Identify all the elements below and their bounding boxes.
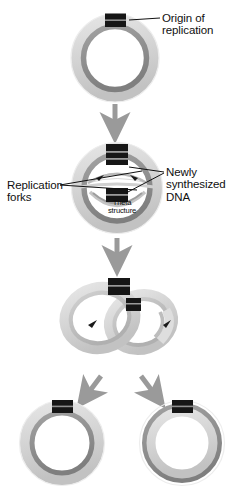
label-origin-of-replication: Origin of replication [162, 12, 213, 37]
daughter-right-outer-strand [145, 406, 219, 480]
stage-parental-circle [71, 14, 159, 103]
label-newly-synthesized-dna: Newly synthesized DNA [166, 166, 226, 203]
stage-daughter-circle-left [20, 400, 105, 486]
parental-inner-strand [84, 27, 147, 90]
daughter-left-outer-strand [25, 406, 99, 480]
daughter-right-inner-strand [151, 412, 213, 474]
stage-theta-structure [72, 143, 163, 234]
label-theta-structure: Theta structure [94, 199, 150, 215]
stage-catenated-circles [58, 278, 181, 359]
parental-outer-strand [77, 20, 154, 97]
diagram-canvas [0, 0, 241, 503]
origin-marker-daughter-right [172, 400, 193, 413]
daughter-left-inner-strand [32, 413, 92, 473]
stage-daughter-circle-right [140, 400, 225, 486]
origin-marker-stage1 [105, 14, 126, 28]
arrow-stage3-to-daughter-left [86, 376, 101, 396]
label-replication-forks: Replication forks [7, 179, 63, 204]
origin-marker-stage2-top [106, 144, 128, 165]
origin-marker-daughter-left [52, 400, 73, 413]
theta-replication-diagram: Origin of replication Replication forks … [0, 0, 241, 503]
origin-marker-stage3-lower [126, 298, 141, 311]
fork-arrowhead-catenated-left [88, 320, 97, 328]
origin-marker-stage3-upper [108, 278, 130, 295]
arrow-stage3-to-daughter-right [141, 376, 156, 396]
